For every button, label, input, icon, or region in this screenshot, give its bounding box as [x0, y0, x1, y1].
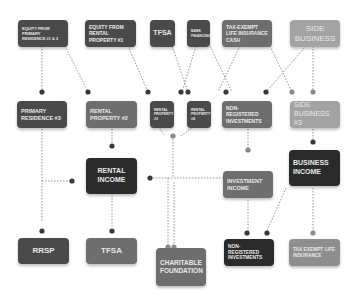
- source-equity-primary-residence: EQUITY FROM PRIMARY RESIDENCE #1 & 2: [18, 20, 68, 47]
- asset-rental-property-3: RENTAL PROPERTY #3: [150, 101, 174, 128]
- destination-charitable-foundation: CHARITABLE FOUNDATION: [156, 248, 206, 286]
- source-equity-rental-property: EQUITY FROM RENTAL PROPERTY #1: [85, 20, 136, 47]
- destination-non-registered-investments: NON-REGISTERED INVESTMENTS: [224, 239, 274, 266]
- destination-tax-exempt-life-insurance: TAX EXEMPT LIFE INSURANCE: [289, 239, 340, 266]
- box-label: TFSA: [153, 29, 171, 38]
- box-label: EQUITY FROM RENTAL PROPERTY #1: [89, 24, 132, 43]
- income-business: BUSINESS INCOME: [289, 150, 340, 186]
- asset-side-business-3: SIDE BUSINESS #3: [290, 101, 340, 128]
- destination-tfsa: TFSA: [86, 238, 137, 264]
- source-life-insurance-cash: TAX-EXEMPT LIFE INSURANCE CASH: [222, 20, 272, 47]
- box-label: RENTAL PROPERTY #3: [154, 108, 173, 121]
- box-label: RENTAL INCOME: [90, 167, 133, 185]
- box-label: SIDE BUSINESS: [294, 24, 336, 44]
- box-label: NON-REGISTERED INVESTMENTS: [228, 244, 270, 262]
- box-label: CHARITABLE FOUNDATION: [160, 259, 203, 275]
- source-tfsa: TFSA: [150, 20, 175, 47]
- asset-primary-residence-3: PRIMARY RESIDENCE #3: [17, 101, 67, 128]
- asset-rental-property-2: RENTAL PROPERTY #2: [86, 101, 137, 128]
- box-label: BANK FINANCING: [191, 29, 210, 38]
- box-label: RENTAL PROPERTY #2: [90, 108, 133, 122]
- source-side-business: SIDE BUSINESS: [290, 20, 340, 47]
- box-label: RRSP: [32, 246, 54, 256]
- asset-non-registered-investments: NON-REGISTERED INVESTMENTS: [222, 101, 272, 128]
- box-label: INVESTMENT INCOME: [227, 178, 269, 192]
- box-label: TAX EXEMPT LIFE INSURANCE: [293, 247, 336, 259]
- box-label: TAX-EXEMPT LIFE INSURANCE CASH: [226, 24, 268, 43]
- income-rental: RENTAL INCOME: [86, 158, 137, 194]
- box-label: SIDE BUSINESS #3: [294, 101, 336, 127]
- box-label: TFSA: [101, 246, 122, 256]
- box-label: EQUITY FROM PRIMARY RESIDENCE #1 & 2: [22, 26, 64, 41]
- destination-rrsp: RRSP: [18, 238, 69, 264]
- asset-rental-property-4: RENTAL PROPERTY #4: [187, 101, 211, 128]
- income-investment: INVESTMENT INCOME: [223, 171, 273, 198]
- box-label: PRIMARY RESIDENCE #3: [21, 108, 63, 122]
- box-label: BUSINESS INCOME: [293, 159, 336, 177]
- box-label: NON-REGISTERED INVESTMENTS: [226, 105, 268, 124]
- source-bank-financing: BANK FINANCING: [187, 20, 210, 47]
- box-label: RENTAL PROPERTY #4: [191, 108, 210, 121]
